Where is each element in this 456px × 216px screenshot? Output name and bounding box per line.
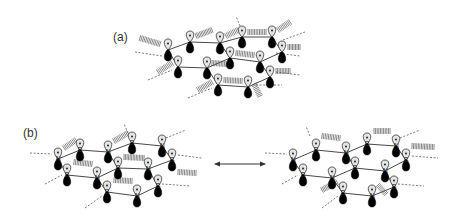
electron-dot xyxy=(345,146,347,148)
hatched-bond xyxy=(156,60,173,74)
electron-dot xyxy=(171,153,173,155)
dashed-continuation-line xyxy=(276,72,300,75)
p-orbital-icon xyxy=(278,41,286,63)
dashed-continuation-line xyxy=(265,153,287,154)
electron-dot xyxy=(107,145,109,147)
electron-dot xyxy=(206,61,208,63)
electron-dot xyxy=(157,179,159,181)
hatched-bond xyxy=(113,130,130,143)
sigma-bond-line xyxy=(118,168,148,169)
sigma-bond-line xyxy=(178,67,207,68)
electron-dot xyxy=(315,143,317,145)
atom-label-b: B xyxy=(65,171,70,178)
electron-dot xyxy=(281,45,283,47)
atom-label-n: N xyxy=(135,192,140,199)
p-orbital-icon: B xyxy=(390,176,398,198)
electron-dot xyxy=(136,189,138,191)
dashed-continuation-line xyxy=(400,130,420,138)
hatched-bond xyxy=(374,128,390,134)
p-orbital-icon xyxy=(266,66,274,88)
electron-dot xyxy=(405,153,407,155)
sigma-bond-line xyxy=(303,175,332,178)
atom-label-b: B xyxy=(105,188,110,195)
dashed-continuation-line xyxy=(30,153,52,154)
dashed-continuation-line xyxy=(282,175,298,184)
panel-a-graphene-sheet xyxy=(135,16,305,98)
sigma-bond-line xyxy=(355,168,385,171)
sigma-bond-line xyxy=(230,58,260,62)
p-orbital-icon: N xyxy=(93,167,101,189)
electron-dot xyxy=(241,30,243,32)
atom-label-n: N xyxy=(56,155,61,162)
panel-b-left-bn-sheet: BNBNNBBNBNBBN xyxy=(30,124,202,208)
hatched-bond xyxy=(276,68,290,74)
dashed-continuation-line xyxy=(178,155,202,158)
electron-dot xyxy=(189,35,191,37)
electron-dot xyxy=(393,180,395,182)
sigma-bond-line xyxy=(190,42,220,43)
electron-dot xyxy=(384,164,386,166)
panel-b-right-bn-sheet: BNBNNBBNBNBBN xyxy=(265,126,438,208)
atom-label-b: B xyxy=(365,140,370,147)
p-orbital-icon: N xyxy=(328,167,336,189)
electron-dot xyxy=(79,143,81,145)
p-orbital-icon: N xyxy=(54,148,62,170)
sigma-bond-line xyxy=(367,144,396,146)
diagram-canvas: (a) (b) BNBNNBBNBNBBN BNBNNBBNBNBBN xyxy=(0,0,456,216)
p-orbital-icon: N xyxy=(133,185,141,207)
panel-label-b: (b) xyxy=(23,126,38,140)
atom-label-n: N xyxy=(146,165,151,172)
electron-dot xyxy=(66,168,68,170)
hatched-bond xyxy=(74,159,93,167)
dashed-continuation-line xyxy=(306,126,310,136)
electron-dot xyxy=(292,153,294,155)
dashed-continuation-line xyxy=(322,196,338,208)
electron-dot xyxy=(219,36,221,38)
electron-dot xyxy=(106,185,108,187)
hatched-bond xyxy=(276,20,291,33)
electron-dot xyxy=(259,55,261,57)
sigma-bond-line xyxy=(218,85,248,87)
sigma-bond-line xyxy=(316,150,346,153)
atom-label-n: N xyxy=(160,142,165,149)
atom-label-b: B xyxy=(314,146,319,153)
electron-dot xyxy=(57,152,59,154)
p-orbital-icon: B xyxy=(154,175,162,197)
electron-dot xyxy=(131,136,133,138)
atom-label-n: N xyxy=(383,167,388,174)
dashed-continuation-line xyxy=(162,184,190,186)
electron-dot xyxy=(269,70,271,72)
hatched-bond xyxy=(288,44,300,50)
p-orbital-icon: N xyxy=(158,135,166,157)
dashed-continuation-line xyxy=(188,88,212,98)
p-orbital-icon: N xyxy=(342,142,350,164)
sigma-bond-line xyxy=(107,192,137,196)
atom-label-b: B xyxy=(170,156,175,163)
dashed-continuation-line xyxy=(166,130,186,138)
electron-dot xyxy=(302,168,304,170)
hatched-bond xyxy=(224,77,242,84)
dashed-continuation-line xyxy=(135,52,162,56)
dashed-continuation-line xyxy=(412,156,438,158)
hatched-bond xyxy=(195,27,213,39)
hatched-bond xyxy=(139,35,161,47)
dashed-continuation-line xyxy=(85,196,102,208)
atom-label-n: N xyxy=(95,174,100,181)
atom-label-b: B xyxy=(341,189,346,196)
hatched-bond xyxy=(322,133,341,141)
hatched-bond xyxy=(236,50,255,58)
p-orbital-icon: N xyxy=(104,141,112,163)
atom-label-n: N xyxy=(370,192,375,199)
p-orbital-icon: N xyxy=(392,135,400,157)
electron-dot xyxy=(167,43,169,45)
sigma-bond-line xyxy=(67,175,97,178)
atom-label-n: N xyxy=(394,142,399,149)
atom-label-b: B xyxy=(78,146,83,153)
p-orbital-icon: B xyxy=(402,149,410,171)
panel-label-a: (a) xyxy=(113,30,128,44)
atom-label-n: N xyxy=(330,174,335,181)
atom-label-n: N xyxy=(106,148,111,155)
electron-dot xyxy=(217,78,219,80)
atom-label-b: B xyxy=(404,156,409,163)
electron-dot xyxy=(342,186,344,188)
